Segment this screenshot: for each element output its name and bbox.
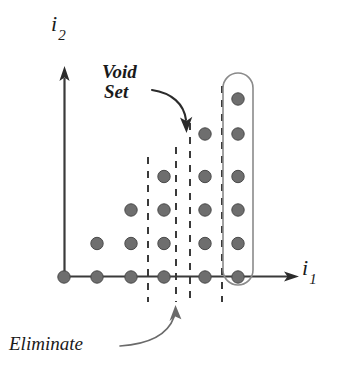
lattice-dot-highlighted bbox=[232, 204, 244, 216]
void-set-line-2: Set bbox=[102, 82, 137, 102]
lattice-dot bbox=[199, 128, 211, 140]
lattice-dot-highlighted bbox=[232, 170, 244, 182]
lattice-dot bbox=[199, 204, 211, 216]
lattice-dots-group bbox=[58, 93, 244, 283]
x-axis-label: i1 bbox=[302, 256, 316, 284]
y-axis-label: i2 bbox=[51, 12, 65, 40]
lattice-dot bbox=[199, 237, 211, 249]
void-set-callout-arrow bbox=[152, 90, 192, 133]
lattice-dot bbox=[91, 237, 103, 249]
y-axis-label-subscript: 2 bbox=[58, 27, 66, 43]
lattice-dot bbox=[158, 237, 170, 249]
lattice-dot bbox=[125, 204, 137, 216]
lattice-dot-highlighted bbox=[232, 237, 244, 249]
y-axis-label-text: i bbox=[51, 11, 57, 36]
lattice-dot bbox=[199, 170, 211, 182]
diagram-canvas bbox=[0, 0, 345, 378]
void-set-annotation: VoidSet bbox=[102, 62, 137, 102]
lattice-dot bbox=[158, 204, 170, 216]
lattice-dot bbox=[199, 271, 211, 283]
void-set-lattice-diagram: i2 i1 VoidSet Eliminate bbox=[0, 0, 345, 378]
eliminate-callout-arrow bbox=[120, 305, 181, 346]
lattice-dot bbox=[158, 271, 170, 283]
lattice-dot-highlighted bbox=[232, 128, 244, 140]
lattice-dot-highlighted bbox=[232, 271, 244, 283]
lattice-dot bbox=[158, 170, 170, 182]
lattice-dot bbox=[125, 237, 137, 249]
lattice-dot bbox=[125, 271, 137, 283]
eliminate-annotation: Eliminate bbox=[9, 334, 83, 354]
x-axis-label-subscript: 1 bbox=[309, 271, 317, 287]
lattice-dot bbox=[91, 271, 103, 283]
lattice-dot bbox=[58, 271, 70, 283]
x-axis-label-text: i bbox=[302, 255, 308, 280]
lattice-dot-highlighted bbox=[232, 93, 244, 105]
void-set-line-1: Void bbox=[102, 61, 137, 82]
